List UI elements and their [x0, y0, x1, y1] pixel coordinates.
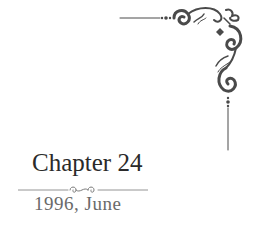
- corner-flourish-icon: [118, 6, 258, 154]
- chapter-date: 1996, June: [34, 192, 121, 216]
- chapter-heading-page: Chapter 24 1996, June: [0, 0, 266, 236]
- chapter-title: Chapter 24: [32, 148, 142, 178]
